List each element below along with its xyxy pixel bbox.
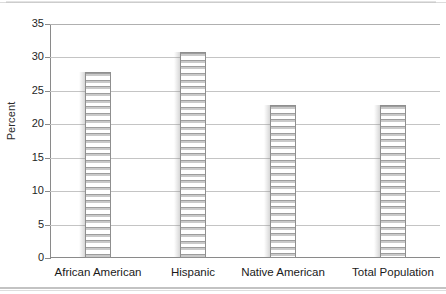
y-axis-tick-label-text: 20: [2, 118, 44, 129]
gridline-35: [50, 24, 440, 25]
y-axis-tick-label: 0: [0, 258, 44, 259]
y-tick-mark-20: [45, 124, 50, 125]
x-axis-category-label: Total Population: [352, 266, 434, 278]
y-axis-tick-label: 25: [0, 91, 44, 92]
y-axis-tick-label-text: 10: [2, 185, 44, 196]
y-axis-tick-label-text: 0: [2, 252, 44, 263]
x-axis-category-label: Native American: [241, 266, 325, 278]
bar-hispanic: [180, 52, 206, 258]
y-tick-mark-30: [45, 57, 50, 58]
y-axis-tick-label: 35: [0, 24, 44, 25]
y-axis-tick-label: 15: [0, 158, 44, 159]
y-axis-tick-label: 10: [0, 191, 44, 192]
y-axis-tick-label-text: 15: [2, 152, 44, 163]
y-axis-tick-label-text: 25: [2, 85, 44, 96]
y-axis-tick-label-text: 5: [2, 219, 44, 230]
y-axis-tick-label: 5: [0, 225, 44, 226]
bar-total-population: [380, 105, 406, 258]
scan-artifact-top-rule: [0, 2, 446, 5]
y-axis-tick-label-text: 35: [2, 18, 44, 29]
y-axis-tick-label: 20: [0, 124, 44, 125]
gridline-30: [50, 57, 440, 58]
y-tick-mark-35: [45, 24, 50, 25]
y-tick-mark-25: [45, 91, 50, 92]
plot-area: [50, 24, 440, 258]
y-tick-mark-5: [45, 225, 50, 226]
scan-artifact-bottom-rule-2: [0, 290, 446, 291]
y-tick-mark-0: [45, 258, 50, 259]
x-axis-category-label: African American: [55, 266, 142, 278]
y-axis-tick-label: 30: [0, 57, 44, 58]
bar-native-american: [270, 105, 296, 258]
x-axis-category-label: Hispanic: [171, 266, 215, 278]
y-axis-tick-label-text: 30: [2, 51, 44, 62]
bar-african-american: [85, 72, 111, 258]
scan-artifact-bottom-rule: [0, 287, 446, 289]
y-tick-mark-15: [45, 158, 50, 159]
y-tick-mark-10: [45, 191, 50, 192]
chart-screenshot: Percent 35302520151050 African AmericanH…: [0, 0, 446, 294]
